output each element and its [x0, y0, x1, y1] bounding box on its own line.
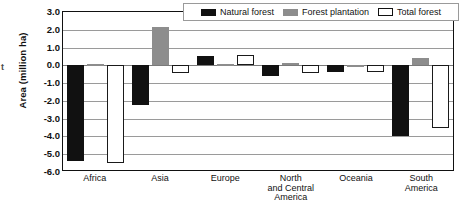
legend-label: Total forest	[397, 7, 441, 17]
bar-plantation[interactable]	[347, 65, 364, 67]
bar-natural[interactable]	[132, 65, 149, 105]
legend-label: Forest plantation	[302, 7, 369, 17]
bar-natural[interactable]	[262, 65, 279, 76]
bar-slot	[327, 12, 344, 170]
bar-natural[interactable]	[67, 65, 84, 161]
y-axis-tick-labels: 3.02.01.00.0-1.0-2.0-3.0-4.0-5.0-6.0	[30, 0, 60, 204]
y-axis-tick-label: 0.0	[47, 59, 60, 70]
bar-slot	[237, 12, 254, 170]
bar-slot	[432, 12, 449, 170]
x-axis-label: Europe	[193, 174, 258, 203]
bar-group	[128, 12, 193, 170]
legend-swatch-total	[378, 8, 393, 16]
chart-legend: Natural forestForest plantationTotal for…	[183, 3, 459, 21]
legend-item[interactable]: Total forest	[378, 7, 441, 17]
y-axis-tick-label: -6.0	[44, 166, 60, 177]
bar-plantation[interactable]	[152, 27, 169, 65]
bar-natural[interactable]	[327, 65, 344, 71]
bar-group	[258, 12, 323, 170]
bar-slot	[152, 12, 169, 170]
x-axis-category-labels: AfricaAsiaEuropeNorthand CentralAmericaO…	[62, 174, 454, 203]
bar-total[interactable]	[367, 65, 384, 71]
x-axis-label: Oceania	[323, 174, 388, 203]
y-axis-tick-label: 1.0	[47, 41, 60, 52]
bar-natural[interactable]	[392, 65, 409, 135]
bar-slot	[262, 12, 279, 170]
legend-label: Natural forest	[220, 7, 274, 17]
bar-set	[388, 12, 453, 170]
bar-set	[128, 12, 193, 170]
bar-slot	[412, 12, 429, 170]
bar-slot	[302, 12, 319, 170]
bar-slot	[347, 12, 364, 170]
bar-group	[323, 12, 388, 170]
bar-plantation[interactable]	[282, 63, 299, 66]
legend-swatch-plantation	[283, 9, 298, 16]
x-axis-label: Asia	[127, 174, 192, 203]
legend-item[interactable]: Natural forest	[201, 7, 274, 17]
bar-set	[63, 12, 128, 170]
x-axis-label: Africa	[62, 174, 127, 203]
bar-slot	[197, 12, 214, 170]
y-axis-tick-label: 2.0	[47, 23, 60, 34]
y-axis-title: Area (million ha)	[17, 6, 28, 136]
bar-group	[388, 12, 453, 170]
bar-group	[63, 12, 128, 170]
bar-set	[323, 12, 388, 170]
legend-swatch-natural	[201, 9, 216, 16]
x-axis-label: SouthAmerica	[389, 174, 454, 203]
legend-item[interactable]: Forest plantation	[283, 7, 369, 17]
bar-total[interactable]	[302, 65, 319, 73]
x-axis-label: Northand CentralAmerica	[258, 174, 323, 203]
bar-slot	[367, 12, 384, 170]
y-axis-tick-label: -5.0	[44, 148, 60, 159]
bar-plantation[interactable]	[412, 58, 429, 65]
bar-plantation[interactable]	[87, 64, 104, 66]
bar-set	[193, 12, 258, 170]
bar-total[interactable]	[432, 65, 449, 128]
bar-slot	[217, 12, 234, 170]
bar-slot	[282, 12, 299, 170]
cropped-text-fragment: t	[1, 62, 4, 72]
bar-slot	[172, 12, 189, 170]
y-axis-tick-label: -2.0	[44, 94, 60, 105]
y-axis-tick-label: 3.0	[47, 6, 60, 17]
y-axis-tick-label: -3.0	[44, 112, 60, 123]
bar-slot	[392, 12, 409, 170]
chart-figure: t Area (million ha) 3.02.01.00.0-1.0-2.0…	[0, 0, 462, 204]
bar-natural[interactable]	[197, 56, 214, 66]
bar-plantation[interactable]	[217, 64, 234, 66]
bar-groups	[63, 12, 453, 170]
plot-area	[62, 11, 454, 171]
bar-slot	[132, 12, 149, 170]
bar-set	[258, 12, 323, 170]
bar-slot	[87, 12, 104, 170]
y-axis-tick-label: -1.0	[44, 77, 60, 88]
bar-group	[193, 12, 258, 170]
bar-slot	[67, 12, 84, 170]
y-axis-tick-label: -4.0	[44, 130, 60, 141]
bar-total[interactable]	[237, 55, 254, 66]
bar-slot	[107, 12, 124, 170]
bar-total[interactable]	[172, 65, 189, 73]
bar-total[interactable]	[107, 65, 124, 163]
